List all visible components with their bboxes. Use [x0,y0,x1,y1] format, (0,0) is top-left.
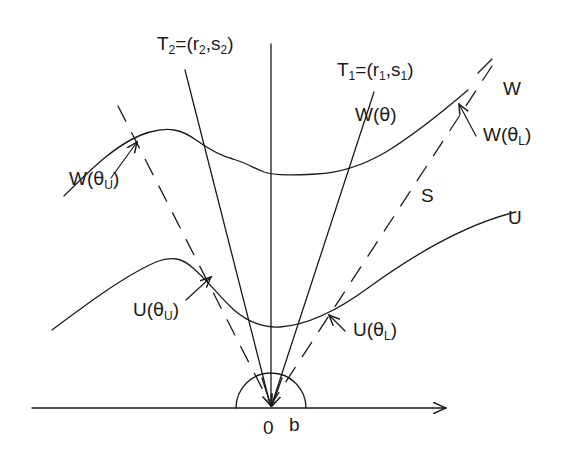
label-u-theta-upper: U(θU) [133,300,179,319]
tick-mark-w [478,59,492,73]
label-w-theta-lower: W(θL) [483,125,531,144]
dashed-ray-theta-upper [118,106,268,400]
curve-w [64,90,468,196]
tangent-line-t2 [185,70,270,404]
curve-u [52,212,516,330]
origin-arrow-left [262,378,271,406]
label-u-curve: U [508,208,522,227]
geometric-diagram-figure: T2=(r2,s2) T1=(r1,s1) W U S W(θ) W(θL) W… [0,0,570,461]
tangent-line-t1 [272,92,374,404]
origin-arrow-right [272,378,282,406]
label-region-s: S [421,186,434,205]
diagram-canvas [0,0,570,461]
label-w-theta-upper: W(θU) [69,169,119,188]
label-tangent-t1: T1=(r1,s1) [337,60,414,79]
label-u-theta-lower: U(θL) [353,320,397,339]
label-origin: 0 [263,418,274,437]
pointer-arrow-u-theta-upper [186,277,211,300]
label-w-theta: W(θ) [355,105,397,124]
label-b: b [289,415,300,434]
label-w-curve: W [503,79,521,98]
pointer-arrow-u-theta-lower [329,315,345,331]
label-tangent-t2: T2=(r2,s2) [157,34,234,53]
pointer-arrow-w-theta-lower [459,104,476,136]
